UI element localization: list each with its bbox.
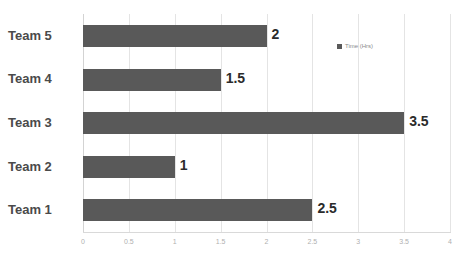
x-tick-label: 1.5 (216, 238, 226, 245)
x-tick-label: 4 (448, 238, 452, 245)
category-label: Team 5 (8, 28, 76, 43)
bar[interactable] (83, 25, 267, 47)
bar[interactable] (83, 156, 175, 178)
bar-row: 2.5 (83, 188, 450, 232)
chart-legend: Time (Hrs) (337, 43, 373, 49)
axis-baseline (83, 232, 451, 233)
bar[interactable] (83, 112, 404, 134)
x-tick-label: 2 (265, 238, 269, 245)
bar-value-label: 2.5 (317, 197, 336, 219)
bar-row: 1.5 (83, 58, 450, 102)
x-tick-label: 0.5 (124, 238, 134, 245)
bar-chart: 2.513.51.52 Team 1Team 2Team 3Team 4Team… (0, 0, 468, 264)
bar[interactable] (83, 69, 221, 91)
x-tick-label: 0 (81, 238, 85, 245)
bar-row: 2 (83, 14, 450, 58)
x-tick-label: 2.5 (308, 238, 318, 245)
plot-area: 2.513.51.52 (83, 14, 450, 232)
category-label: Team 4 (8, 71, 76, 86)
category-label: Team 1 (8, 202, 76, 217)
bar-value-label: 1.5 (226, 67, 245, 89)
bar-value-label: 2 (272, 23, 280, 45)
gridline (450, 14, 451, 232)
bar-row: 1 (83, 145, 450, 189)
legend-swatch-icon (337, 44, 342, 49)
category-label: Team 3 (8, 115, 76, 130)
category-label: Team 2 (8, 159, 76, 174)
x-tick-label: 3.5 (399, 238, 409, 245)
bar-value-label: 1 (180, 154, 188, 176)
x-tick-label: 3 (356, 238, 360, 245)
bar[interactable] (83, 199, 312, 221)
bar-row: 3.5 (83, 101, 450, 145)
legend-label: Time (Hrs) (345, 43, 373, 49)
x-tick-label: 1 (173, 238, 177, 245)
bar-value-label: 3.5 (409, 110, 428, 132)
